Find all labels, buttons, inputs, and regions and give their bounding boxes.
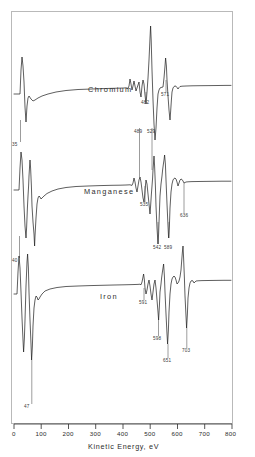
x-tick-200: 200 — [63, 431, 74, 437]
panel-label-chromium: Chromium — [88, 86, 132, 93]
panel-label-iron: Iron — [100, 293, 118, 300]
trace-manganese — [14, 152, 231, 246]
x-tick-600: 600 — [172, 431, 183, 437]
x-tick-0: 0 — [12, 431, 16, 437]
x-axis-title: Kinetic Energy, eV — [88, 443, 159, 450]
x-tick-300: 300 — [90, 431, 101, 437]
figure-root: Chromium Manganese Iron 482 571 35 489 5… — [0, 0, 255, 457]
peak-label-cr-571: 571 — [161, 93, 169, 98]
peak-label-mn-636: 636 — [180, 214, 188, 219]
x-tick-800: 800 — [225, 431, 236, 437]
peak-label-cr-35: 35 — [12, 143, 18, 148]
peak-label-mn-40: 40 — [12, 259, 18, 264]
panel-label-manganese: Manganese — [84, 188, 134, 195]
peak-label-mn-542: 542 — [153, 246, 161, 251]
peak-label-fe-598: 598 — [153, 337, 161, 342]
x-tick-700: 700 — [199, 431, 210, 437]
peak-label-fe-703: 703 — [182, 349, 190, 354]
x-axis — [14, 424, 232, 429]
peak-label-mn-529: 529 — [147, 130, 155, 135]
x-tick-100: 100 — [36, 431, 47, 437]
peak-label-mn-535: 535 — [140, 203, 148, 208]
trace-iron — [14, 246, 231, 360]
peak-label-cr-482: 482 — [141, 101, 149, 106]
peak-label-mn-589: 589 — [164, 246, 172, 251]
leaders-iron — [32, 288, 187, 404]
peak-label-fe-47: 47 — [24, 405, 30, 410]
x-tick-400: 400 — [117, 431, 128, 437]
peak-label-mn-489: 489 — [134, 130, 142, 135]
peak-label-fe-591: 591 — [139, 301, 147, 306]
spectra-canvas — [0, 0, 255, 457]
trace-chromium — [14, 26, 231, 140]
x-tick-500: 500 — [144, 431, 155, 437]
peak-label-fe-651: 651 — [163, 359, 171, 364]
